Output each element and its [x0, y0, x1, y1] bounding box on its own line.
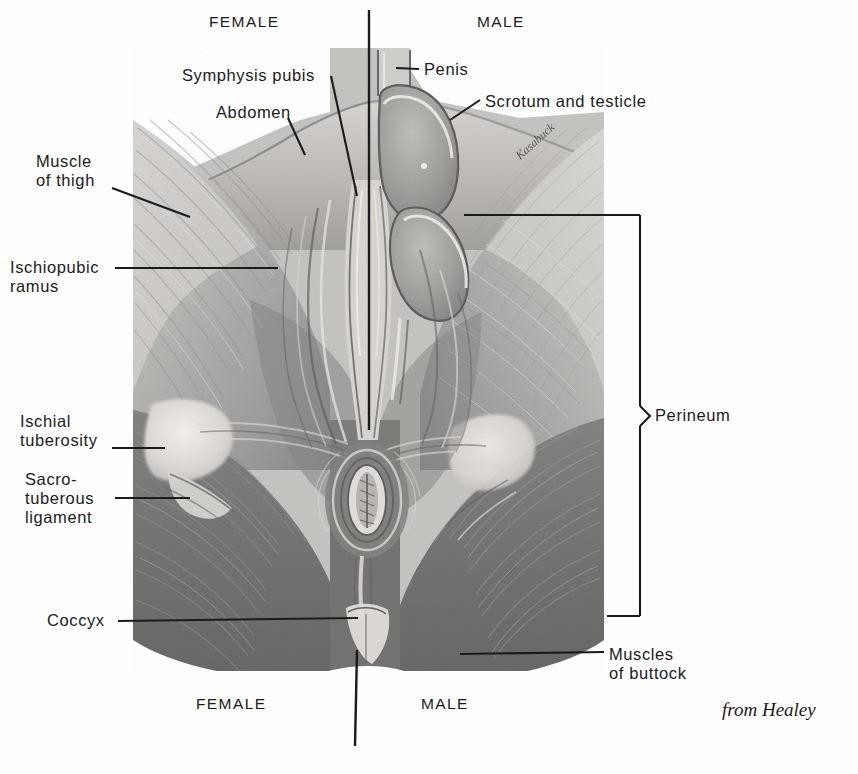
- heading-female-bottom: FEMALE: [196, 694, 266, 713]
- figure-canvas: Kasabuck: [0, 0, 858, 774]
- label-penis: Penis: [424, 60, 468, 79]
- label-scrotum-and-testicle: Scrotum and testicle: [485, 92, 646, 111]
- heading-male-bottom: MALE: [421, 694, 469, 713]
- label-ischial-tuberosity: Ischial tuberosity: [20, 412, 98, 450]
- label-muscle-of-thigh: Muscle of thigh: [36, 152, 95, 190]
- perineum-bracket-tip: [640, 406, 650, 426]
- label-abdomen: Abdomen: [216, 103, 291, 122]
- heading-female-top: FEMALE: [209, 12, 279, 31]
- label-sacrotuberous-ligament: Sacro- tuberous ligament: [25, 470, 94, 527]
- anatomical-figure: Kasabuck: [0, 0, 858, 774]
- heading-male-top: MALE: [477, 12, 525, 31]
- label-muscles-of-buttock: Muscles of buttock: [609, 645, 687, 683]
- source-credit: from Healey: [722, 699, 816, 721]
- label-ischiopubic-ramus: Ischiopubic ramus: [10, 258, 99, 296]
- label-coccyx: Coccyx: [47, 611, 105, 630]
- label-perineum: Perineum: [655, 406, 730, 425]
- leader-penis: [396, 68, 419, 69]
- label-symphysis-pubis: Symphysis pubis: [182, 66, 315, 85]
